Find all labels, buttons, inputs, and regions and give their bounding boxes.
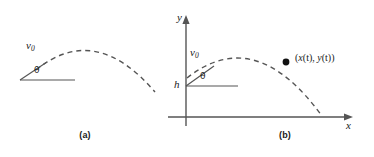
panel-b: v0 θ h y x (x(t), y(t)) (b): [150, 0, 374, 157]
point-x-arg: (t): [303, 52, 312, 63]
point-close-paren: ): [331, 52, 334, 63]
velocity-subscript-a: 0: [31, 44, 35, 53]
angle-label-b: θ: [200, 72, 206, 81]
position-coordinate-label: (x(t), y(t)): [295, 53, 335, 63]
point-y-arg: (t): [322, 52, 331, 63]
trajectory-curve-a: [36, 50, 155, 92]
angle-label-a: θ: [34, 66, 40, 75]
y-axis-arrowhead-icon: [182, 15, 189, 24]
caption-b: (b): [245, 130, 325, 140]
trajectory-curve-b: [187, 58, 322, 116]
projectile-motion-figure: v0 θ (a) v0 θ h y x: [0, 0, 374, 157]
height-label: h: [174, 79, 180, 90]
velocity-label-a: v0: [26, 40, 35, 52]
x-axis-label: x: [346, 120, 351, 131]
velocity-label-b: v0: [190, 47, 199, 59]
position-marker-dot: [283, 59, 290, 66]
velocity-subscript-b: 0: [195, 51, 199, 60]
caption-a: (a): [45, 130, 125, 140]
y-axis-label: y: [177, 12, 182, 23]
